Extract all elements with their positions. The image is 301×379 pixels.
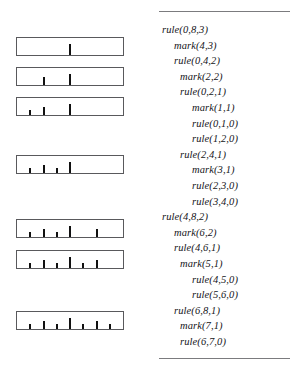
recursion-trace-panel: rule(0,8,3)mark(4,3)rule(0,4,2)mark(2,2)…: [150, 0, 301, 379]
trace-divider-bottom: [159, 358, 290, 359]
ruler-row-7: [16, 311, 124, 330]
trace-line: mark(4,3): [150, 38, 301, 54]
ruler-tick: [69, 74, 71, 85]
ruler-tick: [69, 44, 71, 55]
trace-line: mark(6,2): [150, 225, 301, 241]
ruler-row-4: [16, 155, 124, 174]
ruler-surface: [17, 38, 123, 55]
ruler-tick: [109, 324, 111, 329]
rulers-panel: [0, 0, 150, 379]
ruler-tick: [29, 324, 31, 329]
ruler-tick: [82, 324, 84, 329]
ruler-tick: [29, 263, 31, 268]
ruler-tick: [43, 321, 45, 329]
trace-line: rule(1,2,0): [150, 131, 301, 147]
ruler-tick: [82, 263, 84, 268]
trace-line: rule(5,6,0): [150, 287, 301, 303]
ruler-row-1: [16, 37, 124, 56]
ruler-tick: [96, 229, 98, 237]
trace-line: rule(0,1,0): [150, 116, 301, 132]
trace-list: rule(0,8,3)mark(4,3)rule(0,4,2)mark(2,2)…: [150, 22, 301, 349]
ruler-surface: [17, 98, 123, 115]
ruler-tick: [43, 260, 45, 268]
ruler-tick: [29, 232, 31, 237]
ruler-tick: [43, 107, 45, 115]
ruler-tick: [56, 263, 58, 268]
ruler-row-5: [16, 219, 124, 238]
ruler-row-2: [16, 67, 124, 86]
ruler-tick: [56, 324, 58, 329]
trace-line: mark(5,1): [150, 256, 301, 272]
ruler-tick: [29, 110, 31, 115]
trace-line: rule(4,6,1): [150, 240, 301, 256]
ruler-surface: [17, 251, 123, 268]
trace-divider-top: [159, 11, 290, 12]
ruler-tick: [96, 260, 98, 268]
ruler-row-3: [16, 97, 124, 116]
ruler-surface: [17, 220, 123, 237]
ruler-tick: [43, 165, 45, 173]
trace-line: rule(6,8,1): [150, 303, 301, 319]
trace-line: rule(0,2,1): [150, 84, 301, 100]
trace-line: mark(7,1): [150, 318, 301, 334]
ruler-surface: [17, 156, 123, 173]
ruler-tick: [43, 77, 45, 85]
ruler-tick: [69, 257, 71, 268]
ruler-tick: [56, 232, 58, 237]
trace-line: rule(6,7,0): [150, 334, 301, 350]
trace-line: rule(2,3,0): [150, 178, 301, 194]
ruler-tick: [69, 104, 71, 115]
ruler-tick: [69, 226, 71, 237]
trace-line: rule(0,4,2): [150, 53, 301, 69]
ruler-tick: [56, 168, 58, 173]
trace-line: mark(1,1): [150, 100, 301, 116]
trace-line: mark(3,1): [150, 162, 301, 178]
ruler-tick: [69, 162, 71, 173]
ruler-tick: [29, 168, 31, 173]
ruler-tick: [96, 321, 98, 329]
ruler-tick: [43, 229, 45, 237]
trace-line: rule(4,5,0): [150, 272, 301, 288]
trace-line: mark(2,2): [150, 69, 301, 85]
trace-line: rule(4,8,2): [150, 209, 301, 225]
trace-line: rule(2,4,1): [150, 147, 301, 163]
ruler-row-6: [16, 250, 124, 269]
trace-line: rule(0,8,3): [150, 22, 301, 38]
ruler-surface: [17, 68, 123, 85]
ruler-surface: [17, 312, 123, 329]
trace-line: rule(3,4,0): [150, 194, 301, 210]
ruler-tick: [69, 318, 71, 329]
